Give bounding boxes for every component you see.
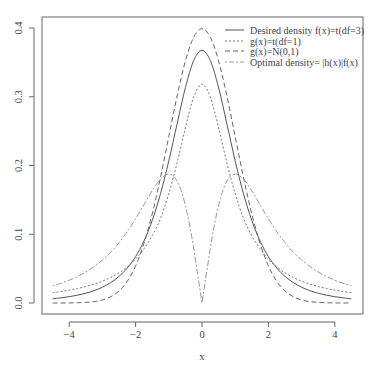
curve-t3-desired — [53, 50, 352, 299]
x-tick-label: 0 — [199, 329, 204, 340]
x-tick-label: −2 — [130, 329, 141, 340]
y-tick-label: 0.3 — [13, 90, 24, 103]
y-tick-label: 0.0 — [13, 296, 24, 309]
density-chart: 0.00.10.20.30.4 −4−2024 Desired density … — [0, 0, 382, 377]
y-tick-label: 0.2 — [13, 159, 24, 172]
curve-optimal — [53, 174, 352, 303]
legend-label: Optimal density= |h(x)|f(x) — [250, 57, 358, 69]
curve-cauchy — [53, 84, 352, 293]
x-axis-label: x — [199, 350, 205, 362]
curve-normal — [53, 29, 352, 303]
y-axis: 0.00.10.20.30.4 — [13, 21, 34, 310]
y-tick-label: 0.1 — [13, 228, 24, 241]
x-axis: −4−2024 — [64, 322, 339, 340]
curves — [53, 29, 352, 303]
y-tick-label: 0.4 — [13, 21, 24, 35]
x-tick-label: 2 — [266, 329, 271, 340]
legend: Desired density f(x)=t(df=3)g(x)=t(df=1)… — [225, 25, 364, 69]
x-tick-label: −4 — [64, 329, 76, 340]
x-tick-label: 4 — [332, 329, 338, 340]
